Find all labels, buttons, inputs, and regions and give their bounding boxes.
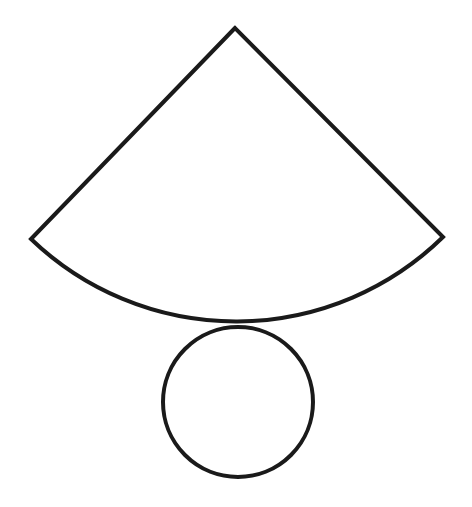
cone-net-diagram (0, 0, 472, 507)
base-circle-shape (163, 327, 313, 477)
sector-shape (31, 28, 443, 321)
